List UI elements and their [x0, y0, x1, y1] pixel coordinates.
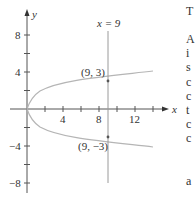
- margin-text-fragment: s: [186, 60, 191, 75]
- point-label-9-neg3: (9, −3): [78, 140, 108, 153]
- point-9-3: [107, 80, 110, 83]
- x-axis-arrow-icon: [162, 107, 169, 112]
- margin-text-fragment: c: [186, 117, 191, 132]
- margin-text-fragment: T: [186, 4, 193, 19]
- x-tick-label-8: 8: [96, 113, 102, 125]
- margin-text-fragment: t: [186, 103, 189, 118]
- margin-text-fragment: c: [186, 89, 191, 104]
- y-tick-label-neg4: −4: [9, 140, 21, 152]
- y-axis-label: y: [31, 8, 37, 20]
- x-axis-label: x: [171, 103, 177, 115]
- margin-text-fragment: c: [186, 75, 191, 90]
- margin-text-fragment: a: [186, 174, 191, 189]
- parabola-figure: y x 4 8 12 8 4 −4 −8 x = 9 (9, 3) (9, −3…: [0, 0, 196, 199]
- y-tick-label-8: 8: [15, 29, 21, 41]
- y-tick-label-neg8: −8: [9, 177, 21, 189]
- y-tick-label-4: 4: [15, 66, 21, 78]
- margin-text-fragment: i: [186, 46, 189, 61]
- x-tick-label-4: 4: [60, 113, 66, 125]
- x-tick-label-12: 12: [129, 113, 140, 125]
- point-label-9-3: (9, 3): [81, 66, 105, 79]
- y-axis-arrow-icon: [25, 9, 30, 16]
- margin-text-fragment: A: [186, 32, 195, 47]
- point-9-neg3: [107, 136, 110, 139]
- line-label: x = 9: [96, 17, 121, 29]
- margin-text-fragment: c: [186, 131, 191, 146]
